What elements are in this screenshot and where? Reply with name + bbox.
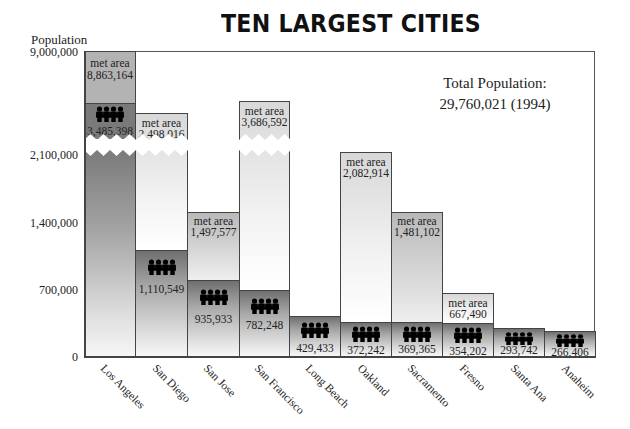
x-label-los-angeles: Los Angeles — [99, 362, 148, 411]
bar-san-diego-city: 1,110,549 — [135, 250, 188, 357]
x-axis — [84, 356, 596, 358]
city-pop-value: 372,242 — [341, 344, 391, 356]
metro-pop-value: 1,497,577 — [188, 226, 239, 238]
city-pop-value: 293,742 — [494, 344, 544, 356]
x-label-long-beach: Long Beach — [304, 362, 352, 410]
bar-sacramento-metro: met area 1,481,102 — [391, 212, 443, 323]
x-label-san-diego: San Diego — [151, 362, 194, 405]
x-label-san-jose: San Jose — [202, 362, 239, 399]
metro-pop-value: 2,082,914 — [341, 167, 391, 179]
people-group-icon — [301, 322, 330, 338]
bar-san-jose-city: 935,933 — [187, 280, 240, 357]
city-pop-value: 935,933 — [188, 313, 239, 325]
x-label-anaheim: Anaheim — [560, 362, 598, 400]
y-tick-0: 0 — [0, 350, 78, 365]
city-pop-value: 369,365 — [392, 343, 442, 355]
total-population-annotation: Total Population: 29,760,021 (1994) — [420, 73, 570, 115]
y-tick-1400000: 1,400,000 — [0, 216, 78, 231]
metro-pop-value: 1,481,102 — [392, 226, 442, 238]
bar-fresno-city: 354,202 — [442, 323, 494, 357]
bar-san-francisco-city: 782,248 — [239, 290, 290, 357]
bar-oakland-city: 372,242 — [340, 322, 392, 357]
metro-pop-value: 3,686,592 — [240, 116, 289, 128]
people-group-icon — [454, 327, 483, 343]
bar-sacramento-city: 369,365 — [391, 322, 443, 357]
bar-los-angeles-metro: met area 8,863,164 — [84, 51, 136, 104]
city-pop-value: 429,433 — [290, 342, 340, 354]
city-pop-value: 782,248 — [240, 319, 289, 331]
x-label-oakland: Oakland — [356, 362, 392, 398]
x-label-santa-ana: Santa Ana — [509, 362, 551, 404]
people-group-icon — [199, 289, 228, 305]
bar-oakland-metro: met area 2,082,914 — [340, 152, 392, 323]
x-label-sacramento: Sacramento — [406, 362, 453, 409]
city-pop-value: 1,110,549 — [136, 283, 187, 295]
metro-pop-value: 8,863,164 — [85, 69, 135, 81]
bar-san-francisco-metro: met area 3,686,592 — [239, 101, 290, 291]
metro-pop-value: 667,490 — [443, 308, 493, 320]
people-group-icon — [96, 106, 125, 122]
met-area-label: met area — [85, 57, 135, 69]
bar-long-beach-city: 429,433 — [289, 316, 341, 357]
chart-title: TEN LARGEST CITIES — [221, 10, 481, 38]
bar-santa-ana-city: 293,742 — [493, 328, 545, 357]
people-group-icon — [250, 298, 279, 314]
people-group-icon — [403, 326, 432, 342]
x-label-fresno: Fresno — [458, 362, 489, 393]
people-group-icon — [352, 326, 381, 342]
y-tick-700000: 700,000 — [0, 283, 78, 298]
total-label: Total Population: — [420, 73, 570, 94]
axis-break-zigzag — [84, 134, 294, 158]
people-group-icon — [147, 259, 176, 275]
bar-fresno-metro: met area 667,490 — [442, 293, 494, 324]
y-axis — [84, 51, 86, 357]
y-tick-9000000: 9,000,000 — [0, 45, 78, 60]
y-tick-2100000: 2,100,000 — [0, 148, 78, 163]
bar-los-angeles-city-lower — [84, 150, 136, 357]
total-value: 29,760,021 (1994) — [420, 94, 570, 115]
x-label-san-francisco: San Francisco — [253, 362, 307, 416]
bar-anaheim-city: 266,406 — [544, 331, 596, 357]
bar-san-jose-metro: met area 1,497,577 — [187, 212, 240, 281]
